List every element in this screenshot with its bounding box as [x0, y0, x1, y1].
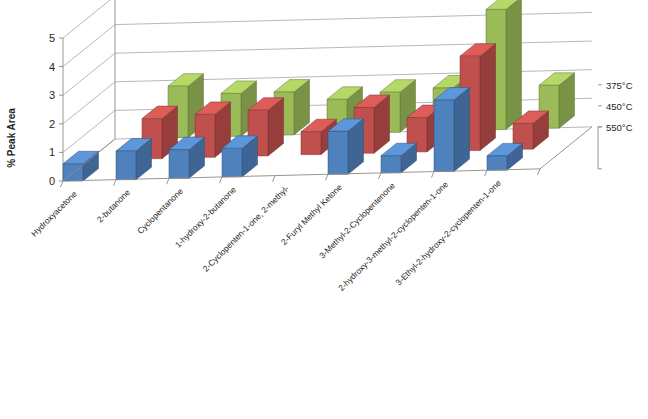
- category-label: 3-Ethyl-2-hydroxy-2-cyclopenten-1-one: [393, 178, 503, 288]
- legend-entry[interactable]: 450°C: [606, 101, 633, 112]
- bar-3d: [116, 139, 152, 180]
- y-tick-label: 1: [49, 146, 55, 158]
- bar-3d: [328, 119, 364, 174]
- y-tick-label: 2: [49, 118, 55, 130]
- bar-3d: [434, 88, 470, 172]
- legend-entry[interactable]: 375°C: [606, 80, 633, 91]
- legend: 375°C450°C550°C: [598, 80, 633, 169]
- y-tick-label: 5: [49, 32, 55, 44]
- chart-container: 012345 Hydroxyacetone2-butanoneCyclopent…: [0, 0, 648, 419]
- category-label: Hydroxyacetone: [29, 188, 79, 238]
- y-tick-label: 4: [49, 61, 55, 73]
- y-tick-label: 3: [49, 89, 55, 101]
- bar-3d: [487, 143, 523, 170]
- legend-entry[interactable]: 550°C: [606, 122, 633, 133]
- category-label: Cyclopentanone: [135, 186, 185, 236]
- category-label: 2-Cyclopenten-1-one, 2-methyl-: [201, 183, 291, 273]
- bar-3d: [381, 143, 417, 173]
- y-axis-title: % Peak Area: [6, 108, 17, 168]
- y-axis: 012345: [49, 32, 63, 187]
- bar-chart-3d: 012345 Hydroxyacetone2-butanoneCyclopent…: [0, 0, 648, 419]
- bars-layer: [63, 0, 575, 181]
- category-label: 2-hydroxy-3-methyl-2-cyclopenten-1-one: [336, 179, 450, 293]
- y-tick-label: 0: [49, 175, 55, 187]
- category-labels: Hydroxyacetone2-butanoneCyclopentanone1-…: [29, 178, 503, 293]
- category-label: 2-butanone: [95, 187, 132, 224]
